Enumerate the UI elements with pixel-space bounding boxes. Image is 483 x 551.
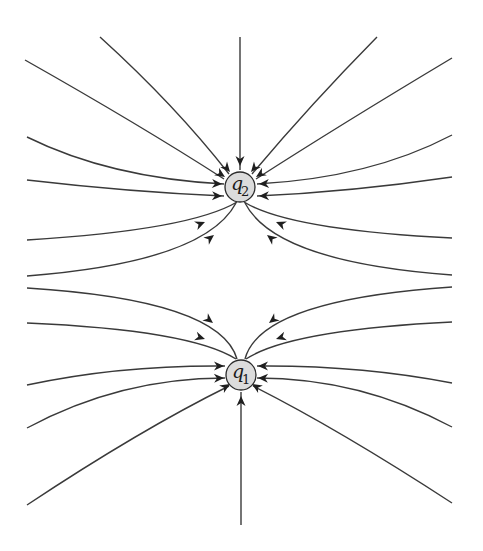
field-lines	[25, 37, 452, 525]
arrowhead-icon	[194, 332, 206, 344]
field-line-q1	[253, 386, 452, 503]
field-line-q1	[245, 287, 452, 359]
arrowhead-icon	[194, 218, 207, 230]
field-line-q1	[257, 366, 452, 383]
charge-subscript: 1	[242, 372, 250, 387]
field-line-diagram: q2q1	[0, 0, 483, 551]
field-line-q1	[27, 288, 237, 359]
arrowhead-icon	[266, 313, 279, 326]
charge-q1: q1	[226, 360, 256, 390]
field-line-q2	[25, 60, 224, 179]
field-line-q2	[256, 58, 452, 179]
field-line-q2	[252, 37, 377, 174]
field-line-q2	[257, 177, 452, 196]
charge-subscript: 2	[241, 184, 249, 199]
field-line-q2	[27, 203, 236, 276]
arrowhead-icon	[275, 332, 287, 344]
field-line-q1	[257, 378, 452, 427]
field-line-q1	[246, 322, 452, 359]
field-line-q1	[27, 386, 229, 505]
arrowhead-icon	[274, 218, 287, 230]
field-line-q2	[100, 37, 229, 174]
field-line-q1	[27, 323, 236, 359]
charge-q2: q2	[225, 172, 255, 202]
field-line-q1	[27, 366, 225, 385]
field-line-q2	[245, 203, 452, 275]
field-line-q2	[244, 202, 452, 238]
charges: q2q1	[225, 172, 256, 390]
